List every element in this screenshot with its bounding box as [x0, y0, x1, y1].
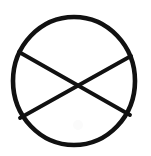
faint-pencil-smudge — [73, 120, 83, 130]
figure-svg — [0, 0, 151, 156]
figure-canvas — [0, 0, 151, 156]
figure-background — [0, 0, 151, 156]
